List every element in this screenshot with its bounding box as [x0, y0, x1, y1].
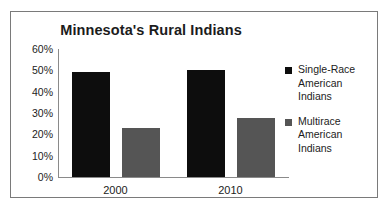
chart-legend: Single-Race American Indians Multirace A… [285, 63, 379, 166]
y-axis-tick-label: 60% [19, 44, 53, 54]
y-axis-labels: 60%50%40%30%20%10%0% [11, 49, 53, 177]
legend-item-multirace: Multirace American Indians [285, 115, 379, 156]
legend-label-single-race-line2: American [298, 77, 342, 89]
x-axis-tick-label: 2010 [173, 184, 288, 196]
y-axis-tick-label: 20% [19, 129, 53, 139]
chart-frame: Minnesota's Rural Indians 60%50%40%30%20… [10, 11, 378, 198]
legend-label-multirace-line1: Multirace [298, 115, 341, 127]
legend-swatch-single-race-icon [285, 67, 292, 74]
bar-2010-multirace [237, 118, 275, 177]
bar-2000-multirace [122, 128, 160, 177]
y-axis-tick-label: 10% [19, 151, 53, 161]
y-axis-tick-label: 30% [19, 108, 53, 118]
y-axis-tick-label: 40% [19, 87, 53, 97]
legend-label-multirace-line2: American [298, 128, 342, 140]
x-axis-line [58, 177, 289, 178]
chart-title: Minnesota's Rural Indians [11, 22, 291, 38]
y-axis-tick-label: 50% [19, 65, 53, 75]
plot-area [58, 49, 288, 177]
legend-label-multirace-line3: Indians [298, 142, 332, 154]
legend-item-single-race: Single-Race American Indians [285, 63, 379, 104]
bar-2000-single-race [72, 72, 110, 177]
legend-swatch-multirace-icon [285, 119, 292, 126]
x-axis-tick-label: 2000 [58, 184, 173, 196]
legend-label-single-race-line3: Indians [298, 90, 332, 102]
legend-label-single-race-line1: Single-Race [298, 63, 355, 75]
bar-2010-single-race [187, 70, 225, 177]
y-axis-tick-label: 0% [19, 172, 53, 182]
